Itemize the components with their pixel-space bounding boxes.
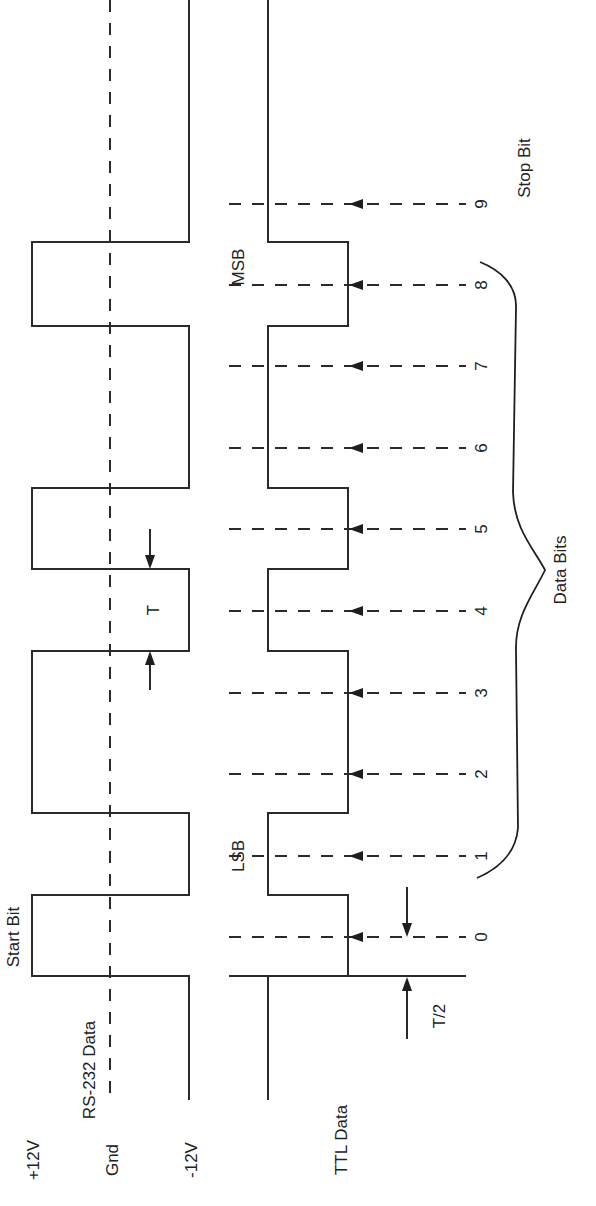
minus-12v-label: -12V [182, 1141, 201, 1178]
period-label: T [144, 605, 163, 615]
arrowhead-icon [349, 769, 363, 779]
rs232-data-label: RS-232 Data [80, 1020, 99, 1119]
arrowhead-icon [349, 280, 363, 290]
bit-label-7: 7 [472, 361, 491, 370]
half-period-label: T/2 [430, 1004, 449, 1029]
bit-label-1: 1 [472, 851, 491, 860]
arrow-up-icon [145, 651, 155, 665]
data-bits-brace-icon [477, 262, 545, 878]
plus-12v-label: +12V [24, 1139, 43, 1180]
arrowhead-icon [349, 361, 363, 371]
bit-label-8: 8 [472, 280, 491, 289]
arrow-up-icon [402, 977, 412, 991]
arrowhead-icon [349, 199, 363, 209]
arrowhead-icon [349, 688, 363, 698]
arrowhead-icon [349, 524, 363, 534]
sample-arrowheads [349, 199, 363, 942]
start-bit-label: Start Bit [4, 906, 23, 967]
half-period-marker: T/2 [402, 887, 449, 1039]
ttl-data-label: TTL Data [332, 1104, 351, 1175]
arrowhead-icon [349, 606, 363, 616]
arrow-down-icon [402, 923, 412, 937]
bit-label-9: 9 [472, 199, 491, 208]
bit-label-0: 0 [472, 932, 491, 941]
msb-label: MSB [229, 249, 248, 286]
bit-number-labels: 0 1 2 3 4 5 6 7 8 9 [472, 199, 491, 941]
arrow-down-icon [145, 555, 155, 569]
bit-label-5: 5 [472, 524, 491, 533]
arrowhead-icon [349, 932, 363, 942]
ttl-waveform [268, 0, 348, 1100]
bit-label-2: 2 [472, 769, 491, 778]
data-bits-label: Data Bits [551, 536, 570, 605]
lsb-label: LSB [229, 840, 248, 872]
timing-diagram: 0 1 2 3 4 5 6 7 8 9 T T/2 +12V Gnd -12V … [0, 0, 596, 1206]
bit-label-3: 3 [472, 688, 491, 697]
arrowhead-icon [349, 443, 363, 453]
bit-label-6: 6 [472, 443, 491, 452]
stop-bit-label: Stop Bit [515, 138, 534, 198]
arrowhead-icon [349, 851, 363, 861]
bit-label-4: 4 [472, 606, 491, 615]
gnd-label: Gnd [103, 1144, 122, 1176]
period-marker: T [144, 529, 163, 690]
